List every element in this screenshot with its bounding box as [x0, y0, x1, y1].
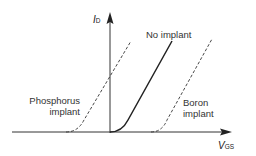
transfer-characteristic-plot — [0, 0, 256, 156]
label-phosphorus-line2: implant — [24, 106, 80, 117]
x-axis-label: VGS — [218, 140, 234, 152]
label-boron-line1: Boron — [183, 97, 214, 108]
label-phosphorus-line1: Phosphorus — [24, 95, 80, 106]
y-axis-label: ID — [93, 14, 100, 26]
label-no-implant: No implant — [146, 29, 191, 40]
curve-phosphorus-implant — [66, 41, 131, 132]
curve-no-implant — [110, 41, 172, 132]
label-boron-line2: implant — [183, 108, 214, 119]
label-boron-implant: Boron implant — [183, 97, 214, 119]
label-phosphorus-implant: Phosphorus implant — [24, 95, 80, 117]
